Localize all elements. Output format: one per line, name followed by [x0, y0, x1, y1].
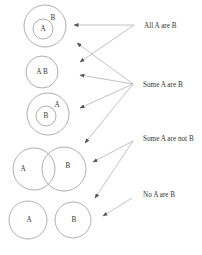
arrow-some_not [95, 141, 133, 198]
circle-label: B [44, 112, 49, 120]
arrow-some [80, 75, 133, 84]
arrows [74, 25, 134, 216]
arrow-some_not [93, 141, 133, 162]
proposition-labels: All A are BSome A are BSome A are not BN… [143, 22, 194, 199]
figure-A-equals-B: A B [26, 56, 58, 88]
circle-a [13, 148, 55, 190]
arrow-some [80, 84, 133, 108]
figure-A-overlaps-B: AB [13, 147, 86, 191]
arrow-some [77, 43, 133, 84]
arrow-none [103, 198, 132, 216]
diagram-canvas: BAA BABABAB All A are BSome A are BSome … [0, 0, 202, 255]
circle-label: A B [36, 68, 48, 76]
euler-figures: BAA BABABAB [9, 5, 91, 239]
circle-label: B [66, 162, 71, 170]
arrow-all [80, 25, 134, 62]
circle-label: B [51, 14, 56, 22]
circle-label: A [54, 101, 60, 109]
figure-A-disjoint-B: AB [9, 201, 91, 239]
circle-label: A [26, 216, 32, 224]
label-all: All A are B [144, 22, 177, 30]
euler-diagram: BAA BABABAB All A are BSome A are BSome … [0, 0, 202, 255]
label-some-not: Some A are not B [143, 135, 194, 143]
figure-A-inside-B: BA [24, 5, 66, 47]
figure-B-inside-A: AB [27, 93, 69, 135]
circle-label: A [20, 165, 26, 173]
circle-label: B [72, 216, 77, 224]
circle-b [42, 147, 86, 191]
label-none: No A are B [143, 191, 175, 199]
circle-label: A [40, 25, 46, 33]
label-some: Some A are B [143, 81, 183, 89]
arrow-some [85, 84, 133, 143]
